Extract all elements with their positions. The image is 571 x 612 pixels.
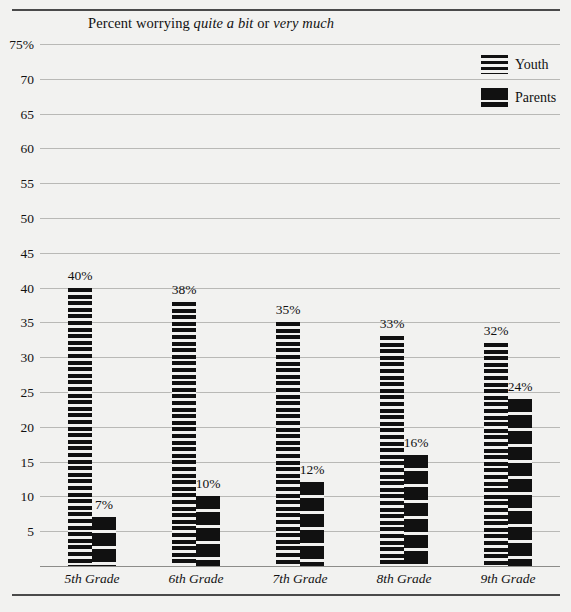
bar-value-label: 38% [154, 283, 214, 297]
x-axis-label-5th-grade: 5th Grade [32, 571, 152, 587]
x-axis-label-9th-grade: 9th Grade [448, 571, 568, 587]
gridline [40, 79, 560, 80]
bar-youth-7th-grade [276, 322, 300, 566]
gridline [40, 44, 560, 45]
bar-parents-8th-grade [404, 455, 428, 566]
bar-value-label: 7% [74, 498, 134, 512]
bar-youth-9th-grade [484, 343, 508, 566]
bar-youth-6th-grade [172, 302, 196, 566]
y-axis-tick-label: 65 [0, 108, 34, 122]
bar-value-label: 40% [50, 269, 110, 283]
y-axis-tick-label: 20 [0, 421, 34, 435]
axis-baseline [40, 566, 560, 567]
bar-value-label: 16% [386, 436, 446, 450]
y-axis-tick-label: 5 [0, 525, 34, 539]
y-axis-tick-label: 55 [0, 177, 34, 191]
gridline [40, 148, 560, 149]
bar-value-label: 32% [466, 324, 526, 338]
legend-label-parents: Parents [515, 90, 556, 106]
bar-youth-8th-grade [380, 336, 404, 566]
bar-value-label: 24% [490, 380, 550, 394]
gridline [40, 357, 560, 358]
y-axis-tick-label: 45 [0, 247, 34, 261]
y-axis-tick-label: 35 [0, 316, 34, 330]
title-part-3: very much [273, 15, 334, 31]
x-axis-label-8th-grade: 8th Grade [344, 571, 464, 587]
bar-value-label: 33% [362, 317, 422, 331]
bar-parents-7th-grade [300, 482, 324, 566]
y-axis-tick-label: 30 [0, 351, 34, 365]
y-axis-tick-label: 50 [0, 212, 34, 226]
gridline [40, 183, 560, 184]
y-axis-tick-label: 75% [0, 38, 34, 52]
legend-swatch-youth-icon [481, 55, 508, 74]
gridline [40, 392, 560, 393]
gridline [40, 218, 560, 219]
bar-parents-6th-grade [196, 496, 220, 566]
x-axis-label-7th-grade: 7th Grade [240, 571, 360, 587]
bar-value-label: 12% [282, 463, 342, 477]
x-axis-label-6th-grade: 6th Grade [136, 571, 256, 587]
y-axis-tick-label: 10 [0, 490, 34, 504]
bar-parents-9th-grade [508, 399, 532, 566]
y-axis-tick-label: 60 [0, 142, 34, 156]
y-axis-tick-label: 70 [0, 73, 34, 87]
gridline [40, 322, 560, 323]
bar-value-label: 10% [178, 477, 238, 491]
bottom-rule [12, 594, 560, 596]
gridline [40, 114, 560, 115]
top-rule [12, 9, 560, 11]
bar-youth-5th-grade [68, 288, 92, 566]
chart-title: Percent worrying quite a bit or very muc… [88, 15, 334, 32]
gridline [40, 288, 560, 289]
title-part-0: Percent worrying [88, 15, 194, 31]
bar-parents-5th-grade [92, 517, 116, 566]
legend-item-youth: Youth [481, 55, 549, 74]
legend-item-parents: Parents [481, 88, 556, 107]
y-axis-tick-label: 40 [0, 282, 34, 296]
chart-figure: Percent worrying quite a bit or very muc… [0, 0, 571, 612]
legend-label-youth: Youth [515, 57, 549, 73]
bar-value-label: 35% [258, 303, 318, 317]
gridline [40, 253, 560, 254]
legend-swatch-parents-icon [481, 88, 508, 107]
y-axis-tick-label: 15 [0, 456, 34, 470]
y-axis-tick-label: 25 [0, 386, 34, 400]
gridline [40, 427, 560, 428]
title-part-1: quite a bit [194, 15, 254, 31]
title-part-2: or [254, 15, 274, 31]
